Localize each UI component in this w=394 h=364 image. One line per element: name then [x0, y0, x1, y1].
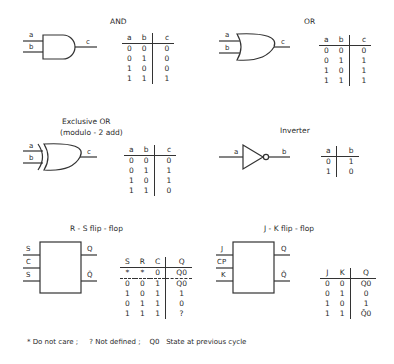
jk-flipflop-title: J - K flip - flop [264, 224, 314, 233]
table-row: **0Q0 [120, 268, 192, 279]
rs-input-s: S [26, 245, 30, 253]
table-row: 111 [122, 74, 174, 84]
table-row: 011 [124, 166, 176, 176]
rs-flipflop-title: R - S flip - flop [70, 224, 123, 233]
table-row: 10 [321, 167, 359, 177]
and-truth-table: abc 000 010 100 111 [122, 33, 174, 84]
or-output-c: c [281, 38, 285, 46]
col-header: R [135, 257, 150, 268]
table-row: 101 [124, 176, 176, 186]
legend-dont-care: * Do not care ; [27, 338, 78, 346]
table-row: 110 [124, 186, 176, 196]
inverter-gate-icon [219, 145, 290, 169]
table-row: 01 [321, 157, 359, 168]
inverter-output-b: b [282, 148, 286, 156]
table-row: 000 [319, 46, 371, 57]
col-header: a [124, 145, 139, 156]
rs-truth-table: SRCQ **0Q0 001Q0 1011 0110 111? [120, 257, 192, 319]
and-input-a: a [29, 31, 33, 39]
table-row: 111 [319, 76, 371, 86]
jk-output-qbar: Q̄ [281, 271, 287, 279]
legend-q0-desc: State at previous cycle [166, 338, 246, 346]
jk-truth-table: JKQ 00Q0 010 101 11Q̄0 [320, 268, 376, 319]
and-input-b: b [29, 43, 33, 51]
legend: * Do not care ; ? Not defined ; Q0 State… [27, 338, 246, 346]
inverter-title: Inverter [280, 126, 310, 135]
and-title: AND [110, 17, 127, 26]
col-header: Q [350, 268, 376, 279]
col-header: b [137, 33, 152, 44]
col-header: c [349, 35, 371, 46]
rs-flipflop-box-icon [23, 242, 97, 293]
table-row: 100 [122, 64, 174, 74]
inverter-truth-table: ab 01 10 [321, 146, 359, 177]
table-row: 010 [122, 54, 174, 64]
table-row: 011 [319, 56, 371, 66]
col-header: b [336, 146, 358, 157]
xor-subtitle: (modulo - 2 add) [60, 128, 123, 137]
jk-input-k: K [221, 271, 226, 279]
col-header: a [319, 35, 334, 46]
rs-output-q: Q [87, 245, 93, 253]
jk-input-j: J [221, 245, 223, 253]
table-row: 1011 [120, 289, 192, 299]
or-input-b: b [225, 44, 229, 52]
jk-input-cp: CP [217, 258, 226, 266]
jk-output-q: Q [281, 245, 287, 253]
or-truth-table: abc 000 011 101 111 [319, 35, 371, 86]
col-header: J [320, 268, 335, 279]
rs-output-qbar: Q̄ [87, 271, 93, 279]
table-row: 11Q̄0 [320, 309, 376, 319]
inverter-input-a: a [234, 148, 238, 156]
col-header: b [139, 145, 154, 156]
table-row: 101 [320, 299, 376, 309]
table-row: 00Q0 [320, 279, 376, 290]
xor-input-b: b [29, 154, 33, 162]
table-row: 001Q0 [120, 279, 192, 290]
xor-output-c: c [87, 148, 91, 156]
col-header: a [321, 146, 336, 157]
col-header: b [334, 35, 349, 46]
xor-input-a: a [29, 142, 33, 150]
table-row: 000 [124, 156, 176, 167]
xor-title: Exclusive OR [62, 117, 111, 126]
legend-q0-symbol: Q0 [149, 338, 159, 346]
table-row: 000 [122, 44, 174, 55]
col-header: K [335, 268, 350, 279]
or-gate-icon [219, 34, 290, 60]
col-header: c [152, 33, 174, 44]
table-row: 0110 [120, 299, 192, 309]
or-input-a: a [225, 31, 229, 39]
or-title: OR [304, 17, 315, 26]
rs-input-s2: S [26, 271, 30, 279]
col-header: a [122, 33, 137, 44]
xor-gate-icon [23, 144, 97, 170]
xor-truth-table: abc 000 011 101 110 [124, 145, 176, 196]
rs-input-c: C [26, 258, 31, 266]
col-header: C [150, 257, 166, 268]
table-row: 010 [320, 289, 376, 299]
jk-flipflop-box-icon [216, 242, 290, 293]
legend-not-defined: ? Not defined ; [89, 338, 140, 346]
table-row: 111? [120, 309, 192, 319]
table-row: 101 [319, 66, 371, 76]
col-header: c [154, 145, 176, 156]
col-header: Q [166, 257, 192, 268]
col-header: S [120, 257, 135, 268]
and-output-c: c [86, 38, 90, 46]
